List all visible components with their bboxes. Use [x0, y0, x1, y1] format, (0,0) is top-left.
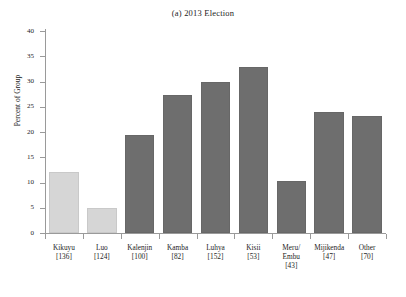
bar [277, 181, 307, 233]
y-axis-tick [40, 56, 45, 57]
x-axis-tick [159, 234, 160, 239]
bar [49, 172, 79, 233]
bar [163, 95, 193, 233]
y-axis-line [45, 29, 46, 234]
bar [125, 135, 155, 233]
y-axis-tick-label: 15 [12, 153, 34, 161]
x-axis-tick [386, 234, 387, 239]
y-axis-tick [40, 82, 45, 83]
x-axis-tick [310, 234, 311, 239]
x-axis-tick [272, 234, 273, 239]
bar [314, 112, 344, 233]
bar [352, 116, 382, 233]
y-axis-tick [40, 132, 45, 133]
y-axis-tick [40, 31, 45, 32]
y-axis-tick-label: 25 [12, 102, 34, 110]
y-axis-tick-label: 30 [12, 77, 34, 85]
y-axis-tick-label: 0 [12, 229, 34, 237]
y-axis-tick-label: 35 [12, 52, 34, 60]
x-axis-tick [197, 234, 198, 239]
y-axis-tick-label: 10 [12, 178, 34, 186]
x-axis-label-count: [43] [269, 261, 313, 270]
chart-title: (a) 2013 Election [0, 8, 406, 18]
y-axis-tick-label: 40 [12, 27, 34, 35]
bar-chart: (a) 2013 Election Percent of Group 05101… [0, 0, 406, 297]
x-axis-tick [121, 234, 122, 239]
bar [87, 208, 117, 233]
x-axis-label-name: Other [345, 243, 389, 252]
bar [239, 67, 269, 233]
y-axis-tick [40, 208, 45, 209]
x-axis-label-count: [70] [345, 252, 389, 261]
y-axis-title: Percent of Group [13, 46, 22, 156]
y-axis-tick [40, 107, 45, 108]
x-axis-tick [234, 234, 235, 239]
x-axis-label: Other[70] [345, 243, 389, 261]
bar [201, 82, 231, 233]
y-axis-tick-label: 5 [12, 203, 34, 211]
x-axis-line [45, 233, 386, 234]
y-axis-tick [40, 157, 45, 158]
y-axis-tick [40, 183, 45, 184]
x-axis-tick [83, 234, 84, 239]
y-axis-tick-label: 20 [12, 128, 34, 136]
x-axis-tick [348, 234, 349, 239]
x-axis-tick [45, 234, 46, 239]
